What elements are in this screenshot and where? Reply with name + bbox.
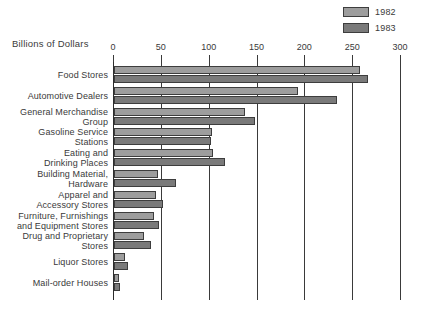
category-label-line: Accessory Stores (0, 200, 108, 210)
category-label-line: Drinking Places (0, 158, 108, 168)
category-label: General MerchandiseGroup (0, 107, 108, 127)
tick-label-250: 250 (345, 42, 360, 52)
legend-label-1983: 1983 (375, 23, 396, 33)
category-label: Gasoline ServiceStations (0, 127, 108, 147)
tick-label-0: 0 (110, 42, 115, 52)
category-label: Eating andDrinking Places (0, 148, 108, 168)
category-label: Food Stores (0, 70, 108, 80)
tick-300 (400, 55, 401, 62)
bar-1982 (114, 191, 156, 199)
bar-rows (113, 62, 400, 300)
bar-group (113, 87, 400, 105)
category-label: Building Material,Hardware (0, 169, 108, 189)
bar-1983 (114, 283, 120, 291)
bar-1983 (114, 96, 337, 104)
bar-1983 (114, 262, 128, 270)
gridline-300 (400, 62, 401, 300)
bar-1982 (114, 212, 154, 220)
plot-area: 050100150200250300 (113, 62, 400, 300)
bar-1982 (114, 108, 245, 116)
bar-1982 (114, 66, 360, 74)
bar-1983 (114, 179, 176, 187)
category-label-line: Stations (0, 137, 108, 147)
tick-50 (161, 55, 162, 62)
bar-group (113, 149, 400, 167)
legend-label-1982: 1982 (375, 7, 396, 17)
category-label-line: Gasoline Service (0, 127, 108, 137)
tick-label-200: 200 (297, 42, 312, 52)
bar-1983 (114, 117, 255, 125)
tick-label-50: 50 (156, 42, 166, 52)
bar-1983 (114, 200, 163, 208)
bar-group (113, 253, 400, 271)
tick-label-100: 100 (201, 42, 216, 52)
bar-1983 (114, 137, 211, 145)
category-label: Furniture, Furnishingsand Equipment Stor… (0, 211, 108, 231)
category-label: Mail-order Houses (0, 278, 108, 288)
category-label: Drug and ProprietaryStores (0, 231, 108, 251)
category-axis-labels: Food StoresAutomotive DealersGeneral Mer… (0, 62, 108, 300)
bar-1982 (114, 274, 119, 282)
category-label-line: Furniture, Furnishings (0, 211, 108, 221)
category-label-line: Hardware (0, 179, 108, 189)
category-label-line: Food Stores (0, 70, 108, 80)
bar-1983 (114, 75, 368, 83)
category-label-line: Drug and Proprietary (0, 231, 108, 241)
legend-swatch-1983 (343, 23, 369, 33)
tick-200 (304, 55, 305, 62)
bar-1982 (114, 149, 213, 157)
category-label-line: Building Material, (0, 169, 108, 179)
bar-1982 (114, 87, 298, 95)
category-label-line: Automotive Dealers (0, 91, 108, 101)
bar-1983 (114, 158, 225, 166)
bar-1983 (114, 241, 151, 249)
bar-1982 (114, 128, 212, 136)
bar-group (113, 170, 400, 188)
bar-group (113, 274, 400, 292)
category-label: Apparel andAccessory Stores (0, 190, 108, 210)
bar-1982 (114, 253, 125, 261)
bar-group (113, 108, 400, 126)
bar-chart: 1982 1983 Billions of Dollars Food Store… (0, 0, 431, 320)
bar-group (113, 128, 400, 146)
bar-1983 (114, 221, 159, 229)
category-label: Liquor Stores (0, 257, 108, 267)
tick-250 (352, 55, 353, 62)
tick-label-300: 300 (392, 42, 407, 52)
bar-group (113, 212, 400, 230)
tick-150 (257, 55, 258, 62)
bar-group (113, 232, 400, 250)
category-label: Automotive Dealers (0, 91, 108, 101)
tick-0 (113, 55, 114, 62)
category-label-line: Mail-order Houses (0, 278, 108, 288)
category-label-line: General Merchandise (0, 107, 108, 117)
tick-label-150: 150 (249, 42, 264, 52)
bar-group (113, 191, 400, 209)
bar-1982 (114, 170, 158, 178)
tick-100 (209, 55, 210, 62)
legend-item-1982: 1982 (343, 5, 427, 18)
legend-swatch-1982 (343, 7, 369, 17)
category-label-line: and Equipment Stores (0, 221, 108, 231)
legend-item-1983: 1983 (343, 21, 427, 34)
axis-title: Billions of Dollars (12, 38, 89, 49)
bar-group (113, 66, 400, 84)
category-label-line: Stores (0, 241, 108, 251)
bar-1982 (114, 232, 144, 240)
chart-legend: 1982 1983 (343, 5, 427, 37)
category-label-line: Apparel and (0, 190, 108, 200)
category-label-line: Liquor Stores (0, 257, 108, 267)
category-label-line: Group (0, 117, 108, 127)
category-label-line: Eating and (0, 148, 108, 158)
